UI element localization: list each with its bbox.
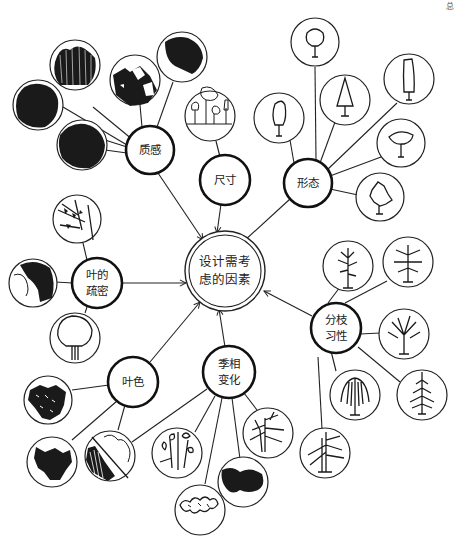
columnar-tree-icon (384, 54, 434, 104)
stippled-canopy-icon (157, 32, 207, 82)
trees-of-varying-height-icon (185, 87, 235, 141)
dense-summer-canopy-icon (218, 457, 268, 507)
dense-dark-canopy-icon (9, 259, 57, 307)
hub-form-label: 形态 (297, 175, 319, 191)
hub-seasonal-change-label: 季相 变化 (218, 356, 240, 388)
flowering-branches-icon (152, 428, 202, 478)
conical-tree-icon (320, 75, 370, 125)
hub-texture-text: 质感 (139, 142, 161, 158)
size-leaves (185, 87, 235, 141)
branching-habit-leaves (300, 237, 447, 478)
patchy-canopy-icon (110, 55, 160, 106)
texture-leaves (13, 32, 207, 170)
hub-foliage-density-line2: 疏密 (86, 283, 108, 299)
round-tree-icon (291, 18, 339, 66)
mottled-foliage-icon (24, 376, 72, 424)
irregular-tree-icon (356, 173, 404, 221)
dark-scribble-canopy-icon (57, 120, 107, 170)
layered-branching-icon (300, 428, 350, 478)
hub-foliage-density-line1: 叶的 (86, 267, 108, 283)
hub-seasonal-change-line1: 季相 (218, 356, 240, 372)
oval-tree-icon (254, 93, 304, 143)
weeping-branching-icon (330, 370, 380, 420)
open-outline-tree-icon (50, 313, 100, 363)
central-label-line1: 设计需考 (199, 253, 251, 271)
dark-solid-foliage-icon (27, 437, 77, 487)
form-leaves (254, 18, 434, 221)
dense-fine-foliage-icon (13, 80, 63, 130)
hub-leaf-color-label: 叶色 (122, 374, 144, 390)
seasonal-change-leaves (152, 408, 293, 535)
scribble-outline-icon (175, 485, 225, 535)
broad-branching-icon (383, 237, 433, 287)
hub-texture-label: 质感 (139, 142, 161, 158)
bare-winter-tree-icon (243, 408, 293, 458)
corner-page-mark: 总 (446, 0, 454, 11)
central-node-label: 设计需考 虑的因素 (199, 253, 251, 289)
upright-branching-icon (323, 241, 373, 291)
spreading-tree-icon (377, 119, 425, 167)
hub-branching-habit-line1: 分枝 (325, 312, 347, 328)
hub-form-text: 形态 (297, 175, 319, 191)
conifer-branching-icon (397, 370, 447, 420)
central-label-line2: 虑的因素 (199, 271, 251, 289)
half-hatched-foliage-icon (85, 431, 135, 481)
hub-leaf-color-text: 叶色 (122, 374, 144, 390)
hub-branching-habit-line2: 习性 (325, 328, 347, 344)
sparse-branches-icon (53, 195, 101, 243)
hub-size-label: 尺寸 (214, 172, 236, 188)
hub-branching-habit-label: 分枝 习性 (325, 312, 347, 344)
vertical-hatched-canopy-icon (50, 40, 100, 90)
hub-foliage-density-label: 叶的 疏密 (86, 267, 108, 299)
rounded-branching-icon (379, 309, 429, 359)
hub-size-text: 尺寸 (214, 172, 236, 188)
hub-seasonal-change-line2: 变化 (218, 372, 240, 388)
